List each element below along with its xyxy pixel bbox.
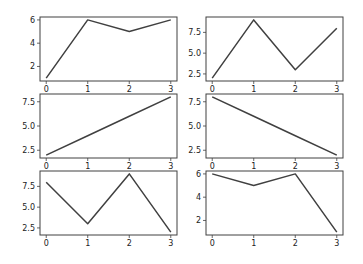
x-tick-label: 1 <box>85 85 90 94</box>
x-tick-label: 1 <box>251 239 256 248</box>
y-tick-label: 2.5 <box>188 70 201 79</box>
x-tick-label: 1 <box>251 85 256 94</box>
x-tick-label: 3 <box>168 162 173 171</box>
x-tick-label: 3 <box>334 85 339 94</box>
y-tick-label: 5.0 <box>22 203 35 212</box>
x-tick-label: 0 <box>210 162 215 171</box>
x-tick-label: 2 <box>293 239 298 248</box>
y-tick-label: 5.0 <box>188 122 201 131</box>
y-tick-label: 4 <box>196 193 201 202</box>
x-tick-label: 1 <box>85 239 90 248</box>
y-tick-label: 2 <box>30 62 35 71</box>
y-tick-label: 5.0 <box>22 122 35 131</box>
y-tick-label: 6 <box>196 170 201 179</box>
figure-background <box>0 0 363 264</box>
x-tick-label: 0 <box>44 85 49 94</box>
x-tick-label: 0 <box>44 239 49 248</box>
y-tick-label: 7.5 <box>22 182 35 191</box>
x-tick-label: 1 <box>251 162 256 171</box>
x-tick-label: 3 <box>168 85 173 94</box>
y-tick-label: 4 <box>30 39 35 48</box>
x-tick-label: 3 <box>334 239 339 248</box>
x-tick-label: 2 <box>293 85 298 94</box>
x-tick-label: 0 <box>210 85 215 94</box>
y-tick-label: 7.5 <box>188 98 201 107</box>
x-tick-label: 0 <box>44 162 49 171</box>
x-tick-label: 2 <box>127 162 132 171</box>
y-tick-label: 2.5 <box>22 224 35 233</box>
x-tick-label: 0 <box>210 239 215 248</box>
y-tick-label: 2 <box>196 216 201 225</box>
x-tick-label: 2 <box>127 85 132 94</box>
y-tick-label: 7.5 <box>188 28 201 37</box>
x-tick-label: 1 <box>85 162 90 171</box>
y-tick-label: 7.5 <box>22 98 35 107</box>
y-tick-label: 6 <box>30 16 35 25</box>
x-tick-label: 2 <box>127 239 132 248</box>
x-tick-label: 3 <box>334 162 339 171</box>
x-tick-label: 2 <box>293 162 298 171</box>
y-tick-label: 2.5 <box>188 146 201 155</box>
y-tick-label: 2.5 <box>22 146 35 155</box>
figure: 012324601232.55.07.501232.55.07.501232.5… <box>0 0 363 264</box>
y-tick-label: 5.0 <box>188 49 201 58</box>
x-tick-label: 3 <box>168 239 173 248</box>
